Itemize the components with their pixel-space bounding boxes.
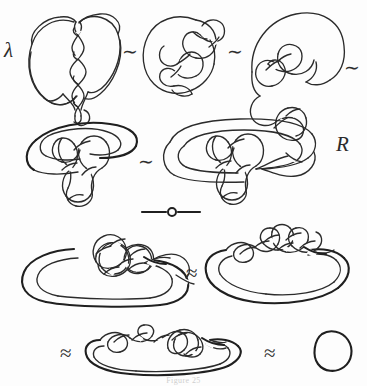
diagram-knot-i <box>0 0 367 386</box>
knot-i-circle <box>315 331 352 371</box>
figure-caption: Figure 25 <box>0 376 367 385</box>
knot-figure: λ ∼ ∼ <box>0 0 367 386</box>
